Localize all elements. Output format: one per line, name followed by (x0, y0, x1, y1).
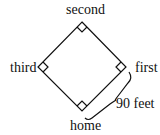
first-base-label: first (135, 61, 158, 75)
home-plate-label: home (70, 119, 101, 133)
first-base-angle-marker (116, 62, 121, 72)
third-base-label: third (10, 61, 36, 75)
second-base-label: second (66, 3, 105, 17)
third-base-angle-marker (43, 62, 48, 72)
diamond-outline (38, 22, 126, 111)
second-base-angle-marker (77, 27, 87, 32)
distance-label: 90 feet (116, 97, 154, 111)
home-plate-angle-marker (77, 101, 87, 106)
